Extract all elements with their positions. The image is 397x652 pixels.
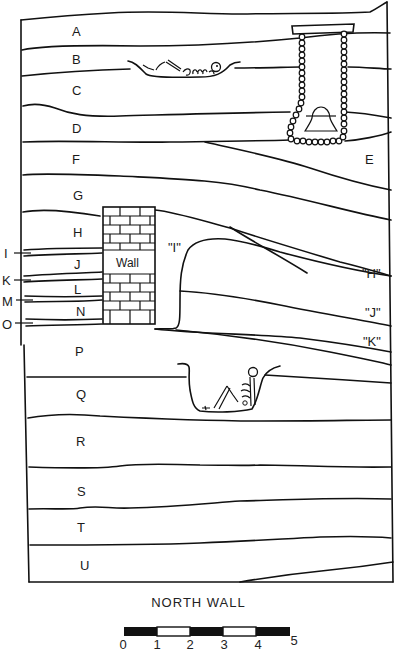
extended-burial-skeleton	[128, 60, 240, 77]
layer-label-c: C	[72, 83, 81, 98]
scale-tick-0: 0	[119, 637, 126, 652]
layer-label-quoted-i: "I"	[168, 240, 181, 255]
bell-icon	[305, 107, 337, 131]
layer-label-f: F	[72, 152, 80, 167]
layer-label-p: P	[75, 344, 84, 359]
layer-label-t: T	[77, 520, 85, 535]
scale-tick-labels: 0 1 2 3 4 5	[0, 637, 397, 652]
lens-label-k: K	[2, 273, 11, 288]
layer-label-s: S	[77, 484, 86, 499]
flexed-burial-skeleton	[178, 364, 280, 412]
lens-label-o: O	[2, 317, 12, 332]
layer-label-e: E	[365, 152, 374, 167]
layer-label-g: G	[73, 188, 83, 203]
layer-label-j: J	[74, 257, 81, 272]
brick-wall: Wall	[103, 207, 155, 324]
layer-label-l: L	[74, 282, 81, 297]
layer-label-n: N	[76, 304, 85, 319]
layer-label-d: D	[72, 121, 81, 136]
layer-label-quoted-k: "K"	[363, 334, 381, 349]
layer-label-quoted-j: "J"	[365, 305, 381, 320]
layer-label-q: Q	[76, 387, 86, 402]
scale-tick-1: 1	[153, 637, 160, 652]
layer-label-quoted-h: "H"	[362, 266, 381, 281]
layer-label-b: B	[72, 52, 81, 67]
section-caption: NORTH WALL	[0, 595, 397, 610]
scale-bar	[124, 627, 290, 636]
lens-label-i: I	[4, 246, 8, 261]
wall-label: Wall	[116, 256, 139, 270]
beaded-ornament	[287, 24, 354, 145]
layer-label-u: U	[80, 558, 89, 573]
scale-tick-2: 2	[186, 637, 193, 652]
stratigraphy-diagram: I K M O A B C D F G H J L N P Q R S T U …	[0, 0, 397, 652]
layer-label-a: A	[72, 24, 81, 39]
layer-label-r: R	[76, 434, 85, 449]
lens-label-m: M	[2, 294, 13, 309]
scale-tick-4: 4	[254, 637, 261, 652]
layer-label-h: H	[73, 225, 82, 240]
scale-tick-3: 3	[220, 637, 227, 652]
scale-tick-5: 5	[290, 633, 297, 648]
